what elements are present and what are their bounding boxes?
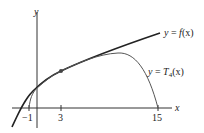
taylor-diagram: x y −1 3 15 y = f(x) y = T4(x) xyxy=(0,0,204,133)
x-axis-label: x xyxy=(174,102,180,113)
f-label: y = f(x) xyxy=(163,27,194,39)
y-axis-label: y xyxy=(33,6,39,17)
tick-label-3: 3 xyxy=(58,112,63,123)
tick-label-minus1: −1 xyxy=(22,112,33,123)
plot-area: x y −1 3 15 y = f(x) y = T4(x) xyxy=(0,0,204,133)
f-curve xyxy=(12,33,160,127)
tangency-point xyxy=(59,69,63,73)
t4-label: y = T4(x) xyxy=(147,66,184,79)
tick-label-15: 15 xyxy=(152,112,162,123)
t4-curve xyxy=(29,53,158,108)
